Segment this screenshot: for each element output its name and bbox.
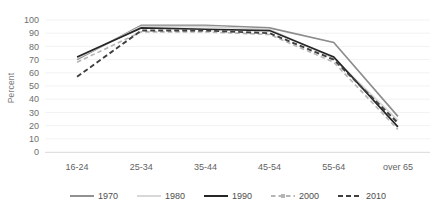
y-axis-tick-label: 0 [34, 147, 39, 157]
x-axis-tick-label: over 65 [383, 162, 413, 172]
y-axis-tick-label: 20 [29, 121, 39, 131]
x-axis-tick-labels: 16-2425-3435-4445-5455-64over 65 [66, 162, 413, 172]
series-line-2010 [77, 31, 398, 123]
legend-label-2010: 2010 [366, 191, 386, 201]
y-axis-tick-label: 80 [29, 42, 39, 52]
line-chart: 0102030405060708090100 Percent 16-2425-3… [0, 0, 436, 213]
y-axis-tick-label: 100 [24, 15, 39, 25]
legend-marker-2000 [281, 194, 285, 198]
x-axis-tick-label: 55-64 [322, 162, 345, 172]
x-axis-tick-label: 16-24 [66, 162, 89, 172]
y-axis-title-text: Percent [6, 72, 16, 103]
y-axis-tick-label: 40 [29, 94, 39, 104]
chart-legend: 19701980199020002010 [70, 191, 386, 201]
y-axis-tick-label: 60 [29, 68, 39, 78]
x-axis-tick-label: 35-44 [194, 162, 217, 172]
y-axis-tick-label: 10 [29, 134, 39, 144]
y-axis-title: Percent [6, 72, 16, 103]
y-axis-tick-label: 70 [29, 55, 39, 65]
y-axis-tick-labels: 0102030405060708090100 [24, 15, 39, 157]
y-axis-tick-label: 30 [29, 108, 39, 118]
x-axis-tick-label: 45-54 [258, 162, 281, 172]
legend-label-2000: 2000 [299, 191, 319, 201]
legend-label-1980: 1980 [165, 191, 185, 201]
y-axis-tick-label: 90 [29, 28, 39, 38]
legend-label-1990: 1990 [232, 191, 252, 201]
y-axis-tick-label: 50 [29, 81, 39, 91]
legend-label-1970: 1970 [98, 191, 118, 201]
series-lines [77, 25, 398, 129]
x-axis-tick-label: 25-34 [130, 162, 153, 172]
chart-canvas: 0102030405060708090100 Percent 16-2425-3… [0, 0, 436, 213]
